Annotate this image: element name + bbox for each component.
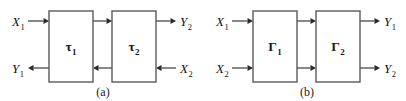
panel-a-link-tau2-to-tau1-bottom-arrowhead-icon: [93, 65, 99, 71]
panel-b-caption: (b): [300, 85, 314, 99]
panel-b-input-x2-label: X2: [215, 61, 229, 79]
panel-a-output-y1-label: Y1: [12, 61, 24, 79]
panel-a-output-y2-wire: [156, 18, 176, 24]
panel-b-link-gamma1-to-gamma2-bottom-arrowhead-icon: [311, 65, 317, 71]
panel-a-block-tau-2[interactable]: τ2: [112, 11, 156, 82]
panel-a-output-y1-wire: [28, 65, 49, 71]
panel-b-output-y2-wire: [360, 65, 380, 71]
block-diagram-svg: τ1τ2X1Y1Y2X2(a)Γ1Γ2X1X2Y1Y2(b): [0, 0, 406, 101]
panels-layer: τ1τ2X1Y1Y2X2(a)Γ1Γ2X1X2Y1Y2(b): [11, 11, 396, 99]
panel-b: Γ1Γ2X1X2Y1Y2(b): [215, 11, 396, 99]
panel-a-input-x1-label: X1: [11, 14, 25, 32]
panel-b-input-x1-label: X1: [215, 14, 229, 32]
panel-b-input-x2-wire-arrowhead-icon: [248, 65, 254, 71]
panel-a-output-y2-label: Y2: [180, 14, 192, 32]
panel-a-input-x2-wire: [156, 65, 176, 71]
panel-b-output-y2-wire-arrowhead-icon: [375, 65, 381, 71]
panel-b-input-x2-wire: [232, 65, 253, 71]
panel-a-input-x1-wire-arrowhead-icon: [44, 18, 50, 24]
panel-b-output-y2-label: Y2: [384, 61, 396, 79]
figure-root: τ1τ2X1Y1Y2X2(a)Γ1Γ2X1X2Y1Y2(b): [0, 0, 406, 101]
panel-b-link-gamma1-to-gamma2-bottom: [297, 65, 316, 71]
panel-b-input-x1-wire: [232, 18, 253, 24]
panel-b-output-y1-label: Y1: [384, 14, 396, 32]
panel-a-link-tau2-to-tau1-bottom: [93, 65, 112, 71]
panel-a: τ1τ2X1Y1Y2X2(a): [11, 11, 193, 99]
panel-a-output-y1-wire-arrowhead-icon: [28, 65, 34, 71]
panel-a-caption: (a): [96, 85, 109, 99]
panel-a-link-tau1-to-tau2-top-arrowhead-icon: [107, 18, 113, 24]
panel-b-link-gamma1-to-gamma2-top-arrowhead-icon: [311, 18, 317, 24]
panel-b-output-y1-wire: [360, 18, 380, 24]
panel-b-link-gamma1-to-gamma2-top: [297, 18, 316, 24]
panel-a-input-x2-wire-arrowhead-icon: [156, 65, 162, 71]
panel-a-input-x2-label: X2: [179, 61, 193, 79]
panel-b-input-x1-wire-arrowhead-icon: [248, 18, 254, 24]
panel-a-block-tau-1[interactable]: τ1: [49, 11, 93, 82]
panel-a-link-tau1-to-tau2-top: [93, 18, 112, 24]
panel-a-output-y2-wire-arrowhead-icon: [171, 18, 177, 24]
panel-b-output-y1-wire-arrowhead-icon: [375, 18, 381, 24]
panel-a-input-x1-wire: [28, 18, 49, 24]
panel-b-block-gamma-2[interactable]: Γ2: [316, 11, 360, 82]
panel-b-block-gamma-1[interactable]: Γ1: [253, 11, 297, 82]
